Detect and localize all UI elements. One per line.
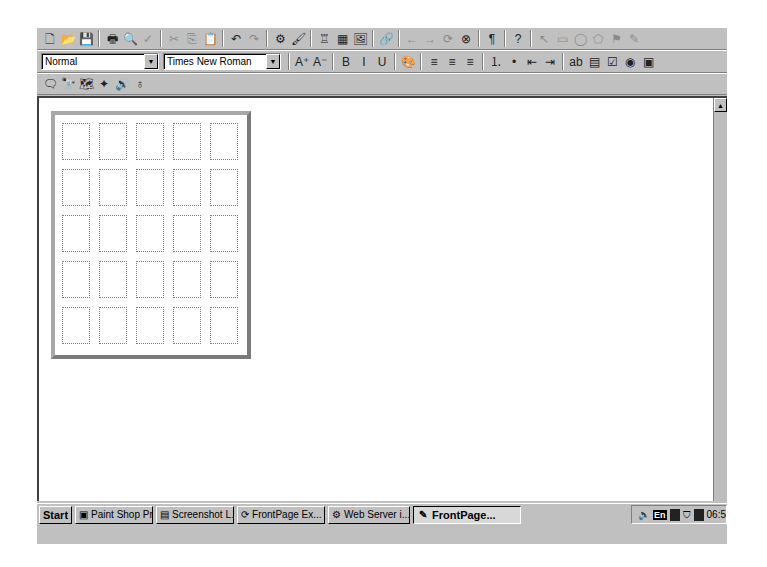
back-button[interactable]: ← (403, 30, 421, 48)
image-map-button[interactable]: 🗺 (77, 75, 95, 93)
print-preview-button[interactable]: 🔍 (121, 30, 139, 48)
radio-button-button[interactable]: ◉ (621, 53, 639, 71)
table-cell[interactable] (173, 169, 201, 206)
tray-app-icon[interactable] (670, 509, 680, 521)
speaker-icon[interactable]: 🔈 (638, 509, 650, 520)
insert-image-button[interactable]: 🖼 (351, 30, 369, 48)
increase-font-size-button[interactable]: A⁺ (293, 53, 311, 71)
table-cell[interactable] (62, 169, 90, 206)
align-left-button[interactable]: ≡ (425, 53, 443, 71)
highlight-hotspots-button[interactable]: ⚑ (607, 30, 625, 48)
copy-button[interactable]: ⎘ (183, 30, 201, 48)
italic-button[interactable]: I (355, 53, 373, 71)
decrease-font-size-button[interactable]: A⁻ (311, 53, 329, 71)
network-icon[interactable] (694, 509, 704, 521)
table-cell[interactable] (99, 123, 127, 160)
taskbar-button[interactable]: ▣Paint Shop Pro (75, 506, 153, 524)
help-button[interactable]: ? (509, 30, 527, 48)
bold-button[interactable]: B (337, 53, 355, 71)
web-component-button[interactable]: ♁ (131, 75, 149, 93)
language-indicator[interactable]: En (653, 510, 667, 520)
layout-table[interactable] (51, 111, 251, 359)
stop-button[interactable]: ⊗ (457, 30, 475, 48)
table-cell[interactable] (62, 307, 90, 344)
one-line-text-box-button[interactable]: ab (567, 53, 585, 71)
decrease-indent-button[interactable]: ⇤ (523, 53, 541, 71)
show-all-button[interactable]: ¶ (483, 30, 501, 48)
save-button[interactable]: 💾 (77, 30, 95, 48)
table-cell[interactable] (99, 307, 127, 344)
taskbar-button[interactable]: ▤Screenshot L... (156, 506, 234, 524)
taskbar-button[interactable]: ⚙Web Server i... (328, 506, 410, 524)
circle-button[interactable]: ◯ (571, 30, 589, 48)
system-tray: 🔈 En ⛉ 06:5 (631, 505, 727, 524)
sound-button[interactable]: 🔊 (113, 75, 131, 93)
undo-button[interactable]: ↶ (227, 30, 245, 48)
find-button[interactable]: 🔭 (59, 75, 77, 93)
format-painter-button[interactable]: 🖌 (289, 30, 307, 48)
wand-button[interactable]: ✦ (95, 75, 113, 93)
cut-button[interactable]: ✂ (165, 30, 183, 48)
table-cell[interactable] (173, 123, 201, 160)
table-cell[interactable] (136, 215, 164, 252)
table-cell[interactable] (173, 307, 201, 344)
table-cell[interactable] (173, 215, 201, 252)
refresh-button[interactable]: ⟳ (439, 30, 457, 48)
check-box-button[interactable]: ☑ (603, 53, 621, 71)
new-page-button[interactable]: 🗋 (41, 30, 59, 48)
align-right-button[interactable]: ≡ (461, 53, 479, 71)
select-pointer-button[interactable]: ↖ (535, 30, 553, 48)
scrolling-text-box-button[interactable]: ▤ (585, 53, 603, 71)
pencil-button[interactable]: ✎ (625, 30, 643, 48)
insert-table-button[interactable]: ▦ (333, 30, 351, 48)
table-cell[interactable] (210, 215, 238, 252)
table-cell[interactable] (99, 169, 127, 206)
insert-component-button[interactable]: ⚙ (271, 30, 289, 48)
redo-button[interactable]: ↷ (245, 30, 263, 48)
polygon-button[interactable]: ⬠ (589, 30, 607, 48)
table-cell[interactable] (210, 123, 238, 160)
font-dropdown[interactable]: Times New Roman ▼ (163, 53, 281, 70)
toolbar-separator (482, 53, 484, 70)
table-cell[interactable] (99, 261, 127, 298)
table-cell[interactable] (210, 261, 238, 298)
start-button[interactable]: Start (39, 506, 72, 524)
hyperlink-button[interactable]: 🔗 (377, 30, 395, 48)
chevron-down-icon[interactable]: ▼ (144, 54, 158, 69)
comment-button[interactable]: 🗨 (41, 75, 59, 93)
one-line-text-box-icon: ab (569, 56, 582, 68)
underline-button[interactable]: U (373, 53, 391, 71)
shield-icon[interactable]: ⛉ (683, 509, 691, 521)
chevron-down-icon[interactable]: ▼ (266, 54, 280, 69)
align-center-button[interactable]: ≡ (443, 53, 461, 71)
vertical-scrollbar[interactable]: ▲ (713, 98, 727, 501)
insert-form-field-button[interactable]: ♖ (315, 30, 333, 48)
open-button[interactable]: 📂 (59, 30, 77, 48)
table-cell[interactable] (136, 169, 164, 206)
rectangle-button[interactable]: ▭ (553, 30, 571, 48)
table-cell[interactable] (210, 307, 238, 344)
table-cell[interactable] (136, 261, 164, 298)
table-cell[interactable] (173, 261, 201, 298)
style-dropdown[interactable]: Normal ▼ (41, 53, 159, 70)
paste-button[interactable]: 📋 (201, 30, 219, 48)
taskbar-button[interactable]: ✎FrontPage... (413, 506, 521, 524)
page-editor[interactable]: ▲ (37, 96, 727, 501)
text-color-button[interactable]: 🎨 (399, 53, 417, 71)
table-cell[interactable] (62, 123, 90, 160)
numbered-list-button[interactable]: ⒈ (487, 53, 505, 71)
print-button[interactable]: 🖶 (103, 30, 121, 48)
taskbar-button[interactable]: ⟳FrontPage Ex... (237, 506, 325, 524)
table-cell[interactable] (136, 123, 164, 160)
scroll-up-button[interactable]: ▲ (714, 98, 727, 112)
drop-down-menu-button[interactable]: ▣ (639, 53, 657, 71)
table-cell[interactable] (136, 307, 164, 344)
table-cell[interactable] (99, 215, 127, 252)
increase-indent-button[interactable]: ⇥ (541, 53, 559, 71)
spelling-button[interactable]: ✓ (139, 30, 157, 48)
table-cell[interactable] (210, 169, 238, 206)
table-cell[interactable] (62, 215, 90, 252)
table-cell[interactable] (62, 261, 90, 298)
bulleted-list-button[interactable]: • (505, 53, 523, 71)
forward-button[interactable]: → (421, 30, 439, 48)
